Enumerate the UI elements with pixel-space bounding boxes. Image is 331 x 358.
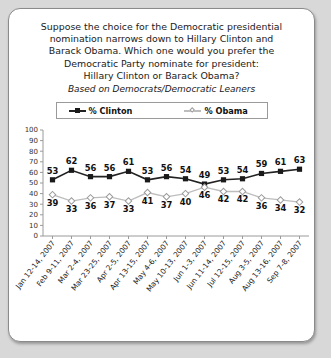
data-label: 56 (85, 163, 97, 173)
data-label: 42 (237, 195, 249, 205)
data-label: 56 (104, 163, 116, 173)
chart-card: Suppose the choice for the Democratic pr… (8, 8, 315, 342)
data-label: 59 (256, 160, 268, 170)
y-tick-label: 70 (29, 159, 38, 167)
y-tick-label: 0 (34, 233, 38, 241)
data-label: 37 (161, 200, 173, 210)
data-point-marker (164, 174, 169, 179)
data-point-marker (297, 167, 302, 172)
data-label: 42 (218, 195, 230, 205)
y-tick-label: 100 (25, 127, 38, 135)
data-label: 63 (294, 156, 306, 166)
data-label: 61 (275, 158, 287, 168)
data-label: 49 (199, 170, 211, 180)
data-point-marker (69, 168, 74, 173)
legend-label-clinton: % Clinton (89, 106, 133, 116)
y-tick-label: 40 (29, 190, 38, 198)
data-point-marker (240, 177, 245, 182)
data-label: 56 (161, 163, 173, 173)
page-title-line-5: Hillary Clinton or Barack Obama? (21, 70, 302, 82)
chart-plot-area: 0102030405060708090100Jan 12-14, 2007Feb… (9, 124, 314, 342)
data-label: 54 (237, 165, 249, 175)
y-tick-label: 50 (29, 180, 38, 188)
legend-label-obama: % Obama (204, 106, 247, 116)
data-label: 32 (294, 206, 306, 216)
data-label: 36 (85, 201, 97, 211)
filled-square-marker-icon (69, 106, 86, 115)
data-label: 53 (218, 166, 230, 176)
line-chart: 0102030405060708090100Jan 12-14, 2007Feb… (9, 124, 314, 342)
data-label: 53 (47, 166, 59, 176)
y-tick-label: 80 (29, 148, 38, 156)
data-point-marker (259, 171, 264, 176)
y-tick-label: 10 (29, 222, 38, 230)
data-point-marker (145, 178, 150, 183)
page-title-line-1: Suppose the choice for the Democratic pr… (21, 21, 302, 33)
page-title-line-2: nomination narrows down to Hillary Clint… (21, 33, 302, 45)
page-title-line-4: Democratic Party nominate for president: (21, 58, 302, 70)
legend-item-clinton: % Clinton (69, 106, 133, 116)
data-label: 61 (123, 158, 135, 168)
y-tick-label: 90 (29, 137, 38, 145)
data-label: 33 (66, 204, 78, 214)
data-label: 40 (180, 197, 192, 207)
data-label: 46 (199, 191, 211, 201)
chart-subtitle: Based on Democrats/Democratic Leaners (21, 83, 302, 95)
page-title-line-3: Barack Obama. Which one would you prefer… (21, 45, 302, 57)
legend-item-obama: % Obama (184, 106, 247, 116)
data-label: 39 (47, 198, 59, 208)
data-point-marker (221, 178, 226, 183)
open-diamond-marker-icon (184, 106, 201, 115)
data-point-marker (278, 169, 283, 174)
data-label: 54 (180, 165, 192, 175)
data-point-marker (183, 177, 188, 182)
data-label: 53 (142, 166, 154, 176)
data-point-marker (107, 174, 112, 179)
y-tick-label: 30 (29, 201, 38, 209)
data-point-marker (88, 174, 93, 179)
data-label: 36 (256, 201, 268, 211)
data-point-marker (126, 169, 131, 174)
data-label: 33 (123, 204, 135, 214)
y-tick-label: 60 (29, 169, 38, 177)
data-label: 34 (275, 203, 287, 213)
y-tick-label: 20 (29, 212, 38, 220)
chart-title-block: Suppose the choice for the Democratic pr… (9, 9, 314, 95)
data-label: 41 (142, 196, 154, 206)
data-label: 62 (66, 157, 78, 167)
chart-legend: % Clinton % Obama (56, 102, 268, 119)
data-label: 37 (104, 200, 116, 210)
data-point-marker (50, 178, 55, 183)
